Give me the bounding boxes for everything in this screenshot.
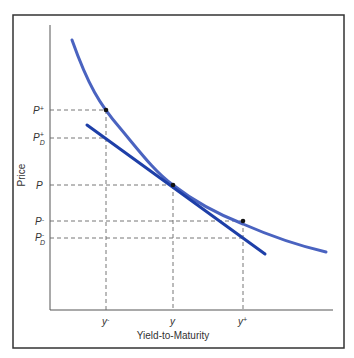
y-tick-2: P [36,180,43,191]
chart-frame [13,15,344,348]
point-y-minus-p-plus [104,108,109,113]
price-yield-chart: P+ P+D P P- P-D y- y y+ Yield-to-Maturit… [0,0,354,358]
x-tick-1: y [169,316,176,327]
y-axis-title: Price [16,163,27,186]
x-axis-title: Yield-to-Maturity [137,330,209,341]
point-y-plus-p-minus [241,219,246,224]
point-y-p [171,183,176,188]
